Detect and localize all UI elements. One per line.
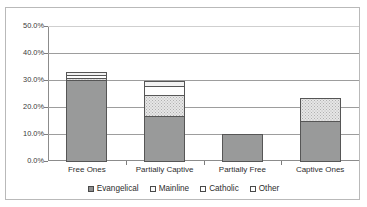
y-axis-tick-mark [44, 161, 48, 162]
y-axis-tick-mark [44, 80, 48, 81]
legend-label: Other [259, 184, 279, 193]
bar-segment-evangelical [222, 134, 263, 162]
legend-item-evangelical[interactable]: Evangelical [88, 184, 139, 193]
bar-segment-evangelical [66, 80, 107, 162]
y-axis-tick-label: 10.0% [8, 130, 44, 137]
legend-swatch-other-icon [250, 186, 256, 192]
legend-swatch-mainline-icon [150, 186, 156, 192]
bar-stack [66, 72, 107, 161]
y-axis-tick-mark [44, 53, 48, 54]
y-axis-tick-label: 40.0% [8, 49, 44, 56]
legend-swatch-catholic-icon [200, 186, 206, 192]
legend-label: Mainline [159, 184, 190, 193]
y-axis-tick-label: 0.0% [8, 157, 44, 164]
legend-item-other[interactable]: Other [250, 184, 279, 193]
bar-stack [144, 81, 185, 161]
chart-frame: 0.0%10.0%20.0%30.0%40.0%50.0% Free OnesP… [5, 7, 360, 200]
legend-label: Evangelical [97, 184, 139, 193]
plot-area: 0.0%10.0%20.0%30.0%40.0%50.0% [48, 26, 359, 161]
y-axis-tick-mark [44, 26, 48, 27]
gridline [48, 53, 359, 54]
y-axis-tick-label: 30.0% [8, 76, 44, 83]
y-axis-tick-mark [44, 107, 48, 108]
chart-legend: EvangelicalMainlineCatholicOther [6, 184, 361, 193]
y-axis-tick-label: 20.0% [8, 103, 44, 110]
bar-segment-evangelical [144, 116, 185, 162]
bar-stack [222, 134, 263, 161]
y-axis-tick-label: 50.0% [8, 22, 44, 29]
x-axis-label: Captive Ones [270, 165, 367, 174]
y-axis-tick-mark [44, 134, 48, 135]
bar-segment-mainline [144, 95, 185, 117]
bar-stack [300, 98, 341, 161]
legend-item-catholic[interactable]: Catholic [200, 184, 239, 193]
legend-label: Catholic [209, 184, 239, 193]
gridline [48, 26, 359, 27]
bar-segment-mainline [300, 98, 341, 122]
legend-item-mainline[interactable]: Mainline [150, 184, 190, 193]
bar-segment-evangelical [300, 121, 341, 162]
legend-swatch-evangelical-icon [88, 186, 94, 192]
